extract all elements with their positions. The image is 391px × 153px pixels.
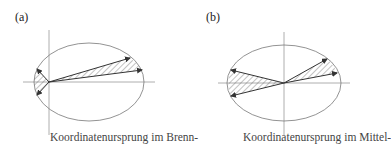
panel-b-center-origin: (b) Koordinatenursprung im Mittel- (193, 0, 386, 153)
sector-near (34, 69, 49, 95)
panel-caption: Koordinatenursprung im Brenn- (50, 131, 198, 143)
sector-far (49, 58, 142, 82)
panel-caption: Koordinatenursprung im Mittel- (243, 131, 391, 143)
sector-left (229, 70, 285, 96)
panel-a-focus-origin: (a) Koordinatenursprung im Brenn- (0, 0, 193, 153)
sector-right (284, 59, 337, 83)
